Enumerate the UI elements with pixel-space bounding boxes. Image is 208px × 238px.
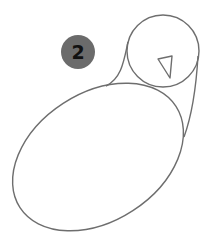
head-circle bbox=[127, 15, 199, 87]
bird-drawing-canvas bbox=[0, 0, 208, 238]
step-number: 2 bbox=[71, 41, 84, 63]
body-ellipse bbox=[0, 53, 208, 238]
beak-triangle bbox=[158, 56, 172, 78]
step-number-badge: 2 bbox=[61, 35, 95, 69]
neck-right-line bbox=[184, 56, 198, 137]
neck-left-line bbox=[106, 42, 128, 86]
